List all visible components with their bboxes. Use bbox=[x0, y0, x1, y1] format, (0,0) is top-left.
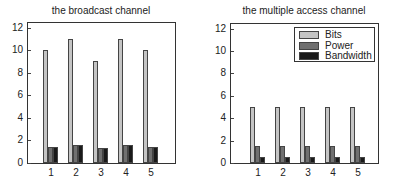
legend-item-bits: Bits bbox=[299, 30, 342, 39]
x-tick-label: 4 bbox=[120, 167, 132, 178]
legend-label: Bandwidth bbox=[325, 50, 372, 61]
y-tick-label: 6 bbox=[210, 90, 226, 101]
y-tick-mark bbox=[28, 163, 31, 164]
bar-bandwidth-1 bbox=[260, 157, 265, 163]
x-tick-label: 2 bbox=[70, 167, 82, 178]
bar-bandwidth-4 bbox=[335, 157, 340, 163]
x-tick-label: 3 bbox=[95, 167, 107, 178]
y-tick-mark bbox=[231, 29, 234, 30]
bar-bandwidth-4 bbox=[128, 145, 133, 163]
bar-bandwidth-5 bbox=[153, 147, 158, 163]
legend-swatch bbox=[299, 52, 319, 60]
y-tick-label: 12 bbox=[7, 22, 23, 33]
y-tick-mark bbox=[231, 96, 234, 97]
y-tick-mark bbox=[231, 51, 234, 52]
x-tick-label: 4 bbox=[327, 167, 339, 178]
y-tick-label: 2 bbox=[7, 134, 23, 145]
bar-bandwidth-2 bbox=[78, 145, 83, 163]
x-tick-label: 3 bbox=[302, 167, 314, 178]
x-tick-label: 1 bbox=[45, 167, 57, 178]
y-tick-label: 12 bbox=[210, 23, 226, 34]
y-tick-label: 2 bbox=[210, 135, 226, 146]
y-tick-mark bbox=[231, 163, 234, 164]
y-tick-mark bbox=[28, 28, 31, 29]
y-tick-mark bbox=[28, 50, 31, 51]
bar-bits-1 bbox=[43, 50, 48, 163]
y-tick-label: 6 bbox=[7, 89, 23, 100]
x-tick-label: 5 bbox=[145, 167, 157, 178]
legend-label: Bits bbox=[325, 29, 342, 40]
y-tick-mark bbox=[28, 118, 31, 119]
y-tick-label: 8 bbox=[7, 67, 23, 78]
bar-bandwidth-2 bbox=[285, 157, 290, 163]
plot-area bbox=[27, 22, 176, 164]
bar-bandwidth-5 bbox=[360, 157, 365, 163]
x-tick-label: 1 bbox=[252, 167, 264, 178]
y-tick-mark bbox=[28, 73, 31, 74]
multiple-access-channel-chart: the multiple access channel Bits Power B… bbox=[196, 0, 393, 184]
bar-bandwidth-3 bbox=[310, 157, 315, 163]
chart-title: the broadcast channel bbox=[27, 5, 175, 16]
bar-bits-5 bbox=[143, 50, 148, 163]
y-tick-label: 10 bbox=[7, 44, 23, 55]
y-tick-mark bbox=[231, 118, 234, 119]
y-tick-mark bbox=[231, 141, 234, 142]
y-tick-label: 10 bbox=[210, 45, 226, 56]
y-tick-label: 0 bbox=[7, 157, 23, 168]
y-tick-mark bbox=[231, 73, 234, 74]
y-tick-label: 4 bbox=[7, 112, 23, 123]
legend-item-power: Power bbox=[299, 41, 353, 50]
legend-swatch bbox=[299, 31, 319, 39]
legend-item-bandwidth: Bandwidth bbox=[299, 51, 372, 60]
chart-legend: Bits Power Bandwidth bbox=[294, 27, 375, 62]
y-tick-label: 4 bbox=[210, 112, 226, 123]
chart-title: the multiple access channel bbox=[230, 5, 378, 16]
x-tick-label: 2 bbox=[277, 167, 289, 178]
y-tick-label: 0 bbox=[210, 157, 226, 168]
x-tick-label: 5 bbox=[352, 167, 364, 178]
broadcast-channel-chart: the broadcast channel 02468101212345 bbox=[0, 0, 196, 184]
bar-bandwidth-3 bbox=[103, 148, 108, 163]
y-tick-mark bbox=[28, 140, 31, 141]
y-tick-mark bbox=[28, 95, 31, 96]
legend-swatch bbox=[299, 42, 319, 50]
bar-bandwidth-1 bbox=[53, 147, 58, 163]
y-tick-label: 8 bbox=[210, 67, 226, 78]
